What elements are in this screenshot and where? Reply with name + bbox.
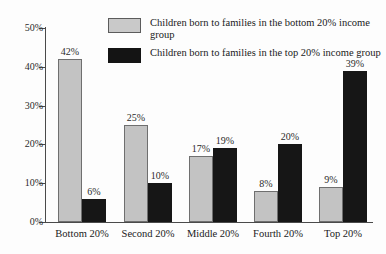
y-axis-tick-label: 50% — [9, 23, 43, 33]
x-axis-category-label: Top 20% — [303, 228, 383, 240]
bar-light-series — [189, 156, 213, 222]
legend-item-label: Children born to families in the top 20%… — [150, 47, 381, 59]
bar-light-series — [124, 125, 148, 222]
legend-item-label: Children born to families in the bottom … — [150, 17, 386, 40]
bar-group: 42%6% — [58, 28, 106, 222]
y-axis-tick-label: 0% — [9, 217, 43, 227]
bar-value-label: 17% — [188, 144, 214, 154]
bar-light-series — [319, 187, 343, 222]
x-axis-line — [46, 222, 373, 223]
bar-value-label: 6% — [81, 187, 107, 197]
legend-item: Children born to families in the bottom … — [108, 17, 386, 40]
bar-value-label: 25% — [123, 113, 149, 123]
bar-value-label: 20% — [277, 132, 303, 142]
bar-dark-series — [213, 148, 237, 222]
bar-light-series — [58, 59, 82, 222]
y-axis-tick-label: 40% — [9, 62, 43, 72]
bar-dark-series — [82, 199, 106, 222]
y-axis-tick-label: 10% — [9, 178, 43, 188]
bar-light-series — [254, 191, 278, 222]
bar-dark-series — [278, 144, 302, 222]
legend-item: Children born to families in the top 20%… — [108, 47, 386, 63]
bar-value-label: 42% — [57, 47, 83, 57]
bar-dark-series — [148, 183, 172, 222]
black-swatch-icon — [108, 48, 141, 63]
chart-legend: Children born to families in the bottom … — [108, 17, 386, 70]
y-axis-tick-label: 30% — [9, 101, 43, 111]
bar-value-label: 9% — [318, 175, 344, 185]
bar-dark-series — [343, 71, 367, 222]
bar-value-label: 8% — [253, 179, 279, 189]
bar-value-label: 19% — [212, 136, 238, 146]
y-axis-tick-label: 20% — [9, 139, 43, 149]
light-gray-swatch-icon — [108, 18, 141, 33]
bar-chart: 0%10%20%30%40%50% 42%6%25%10%17%19%8%20%… — [0, 0, 386, 254]
bar-value-label: 10% — [147, 171, 173, 181]
